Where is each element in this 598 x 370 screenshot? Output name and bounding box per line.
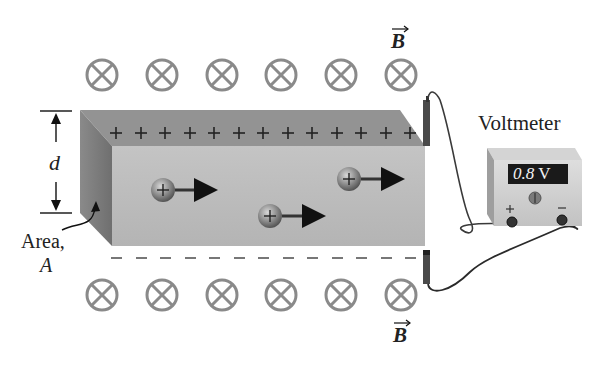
field-into-page-icon	[147, 60, 177, 90]
area-label: Area,	[21, 230, 65, 253]
field-into-page-icon	[386, 60, 416, 90]
magnetic-field-row-top	[87, 60, 416, 90]
field-into-page-icon	[87, 60, 117, 90]
field-into-page-icon	[87, 280, 117, 310]
wire-negative	[428, 224, 577, 291]
top-probe	[423, 96, 430, 146]
voltmeter-title: Voltmeter	[478, 111, 560, 136]
magnetic-field-row-bottom	[87, 280, 416, 310]
field-label-top: B	[391, 29, 405, 54]
slab-top-face	[80, 110, 425, 146]
field-into-page-icon	[207, 280, 237, 310]
field-into-page-icon	[386, 280, 416, 310]
dimension-label-d: d	[49, 150, 60, 176]
field-into-page-icon	[266, 280, 296, 310]
field-into-page-icon	[147, 280, 177, 310]
negative-terminal	[557, 215, 567, 225]
bottom-probe	[423, 250, 430, 284]
diagram-canvas	[0, 0, 598, 370]
voltmeter	[487, 148, 582, 227]
field-into-page-icon	[326, 60, 356, 90]
field-into-page-icon	[207, 60, 237, 90]
voltmeter-reading-unit: V	[538, 164, 550, 183]
voltmeter-reading: 0.8 V	[513, 164, 550, 184]
positive-terminal	[507, 217, 517, 227]
field-label-bottom: B	[393, 323, 407, 348]
hall-effect-diagram: B B Voltmeter 0.8 V d Area, A	[0, 0, 598, 370]
area-symbol: A	[40, 254, 52, 277]
field-into-page-icon	[266, 60, 296, 90]
voltmeter-reading-value: 0.8	[513, 164, 534, 183]
field-into-page-icon	[326, 280, 356, 310]
